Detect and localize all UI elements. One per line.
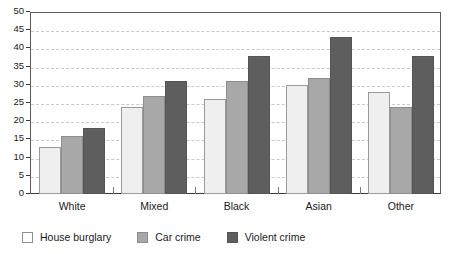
legend-swatch-icon	[227, 232, 238, 243]
bar	[226, 81, 248, 194]
bar	[412, 56, 434, 194]
x-axis-separator-tick	[360, 187, 361, 194]
legend-item[interactable]: House burglary	[22, 231, 111, 243]
y-tick-label: 45	[13, 23, 24, 34]
y-tick-mark	[26, 157, 30, 158]
bar	[61, 136, 83, 194]
legend-item[interactable]: Violent crime	[227, 231, 306, 243]
x-axis-label: Mixed	[113, 200, 195, 213]
x-axis-label: Black	[195, 200, 277, 213]
y-tick-label: 10	[13, 151, 24, 162]
y-tick-label: 20	[13, 114, 24, 125]
y-tick-label: 40	[13, 41, 24, 52]
x-axis-separator-tick	[278, 187, 279, 194]
bar	[248, 56, 270, 194]
legend-label: Violent crime	[245, 231, 306, 243]
x-axis-separator-tick	[195, 187, 196, 194]
y-tick-mark	[26, 193, 30, 194]
bars-layer	[31, 12, 440, 194]
y-tick-mark	[26, 29, 30, 30]
y-tick-label: 30	[13, 78, 24, 89]
legend-label: Car crime	[155, 231, 201, 243]
legend-item[interactable]: Car crime	[137, 231, 201, 243]
bar	[143, 96, 165, 194]
bar	[165, 81, 187, 194]
y-tick-mark	[26, 47, 30, 48]
y-tick-mark	[26, 138, 30, 139]
bar	[390, 107, 412, 194]
x-axis-label: Asian	[278, 200, 360, 213]
y-tick-label: 35	[13, 60, 24, 71]
legend-label: House burglary	[40, 231, 111, 243]
y-axis: 05101520253035404550	[0, 0, 30, 254]
bar-group	[204, 12, 270, 194]
x-axis-separator-tick	[113, 187, 114, 194]
bar	[204, 99, 226, 194]
y-tick-label: 15	[13, 132, 24, 143]
y-tick-mark	[26, 102, 30, 103]
y-tick-mark	[26, 11, 30, 12]
y-tick-mark	[26, 120, 30, 121]
y-tick-mark	[26, 66, 30, 67]
bar	[286, 85, 308, 194]
chart-legend: House burglaryCar crimeViolent crime	[22, 228, 331, 246]
x-axis-label: Other	[360, 200, 442, 213]
legend-swatch-icon	[22, 232, 33, 243]
bar	[39, 147, 61, 194]
y-tick-label: 5	[19, 169, 24, 180]
bar-group	[368, 12, 434, 194]
bar	[308, 78, 330, 194]
y-tick-label: 0	[19, 187, 24, 198]
y-tick-mark	[26, 175, 30, 176]
legend-swatch-icon	[137, 232, 148, 243]
bar	[368, 92, 390, 194]
bar	[330, 37, 352, 194]
y-tick-mark	[26, 84, 30, 85]
y-tick-label: 50	[13, 5, 24, 16]
bar-chart: 05101520253035404550 WhiteMixedBlackAsia…	[0, 0, 459, 254]
bar-group	[39, 12, 105, 194]
bar	[121, 107, 143, 194]
x-axis: WhiteMixedBlackAsianOther	[31, 194, 440, 220]
bar	[83, 128, 105, 194]
bar-group	[286, 12, 352, 194]
x-axis-label: White	[31, 200, 113, 213]
bar-group	[121, 12, 187, 194]
y-tick-label: 25	[13, 96, 24, 107]
